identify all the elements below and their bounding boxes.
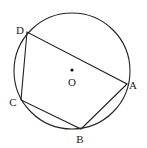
label-o: O bbox=[68, 76, 76, 88]
label-d: D bbox=[16, 24, 24, 36]
center-point-o bbox=[70, 68, 73, 71]
geometry-canvas: O A B C D bbox=[0, 0, 147, 148]
label-a: A bbox=[129, 79, 137, 91]
circle-diagram: O A B C D bbox=[0, 0, 147, 148]
label-b: B bbox=[76, 133, 83, 145]
label-c: C bbox=[9, 96, 16, 108]
